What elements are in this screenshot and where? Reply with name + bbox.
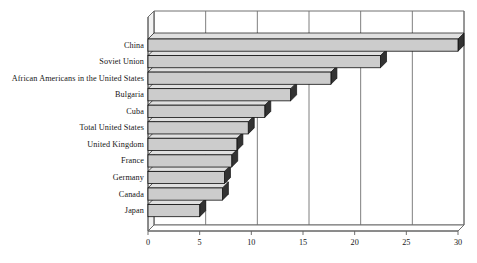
bar <box>148 99 271 117</box>
category-label: Japan <box>125 206 144 215</box>
category-label: France <box>121 156 144 165</box>
plot-floor <box>148 225 464 231</box>
bar <box>148 199 206 217</box>
bar <box>148 132 243 150</box>
x-tick-label: 5 <box>188 238 212 247</box>
bar <box>148 182 228 200</box>
bar <box>148 116 254 134</box>
bar <box>148 83 297 101</box>
category-label: Total United States <box>79 123 144 132</box>
bar <box>148 165 230 183</box>
category-label: United Kingdom <box>87 140 144 149</box>
bar <box>148 66 337 84</box>
x-tick-label: 0 <box>136 238 160 247</box>
x-tick-label: 30 <box>446 238 470 247</box>
category-label: China <box>124 41 144 50</box>
category-label: Soviet Union <box>99 57 144 66</box>
x-tick-label: 15 <box>291 238 315 247</box>
category-label: Cuba <box>126 107 144 116</box>
bar <box>148 50 387 68</box>
category-label: African Americans in the United States <box>12 74 144 83</box>
chart-plot-area <box>0 0 477 263</box>
bar-chart: ChinaSoviet UnionAfrican Americans in th… <box>0 0 477 263</box>
category-label: Canada <box>119 190 144 199</box>
x-tick-label: 25 <box>394 238 418 247</box>
x-tick-label: 20 <box>343 238 367 247</box>
bar <box>148 33 464 51</box>
x-tick-label: 10 <box>239 238 263 247</box>
category-label: Germany <box>113 173 144 182</box>
category-label: Bulgaria <box>115 90 144 99</box>
bar <box>148 149 238 167</box>
